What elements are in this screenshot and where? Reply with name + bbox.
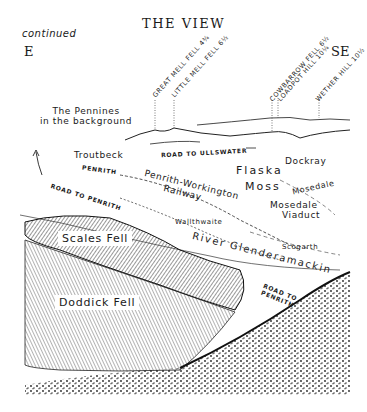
troutbeck-label: Troutbeck: [74, 150, 123, 160]
moss-label: Moss: [245, 180, 281, 193]
doddick-fell-label: Doddick Fell: [55, 295, 139, 310]
pennines-label: The Pennines in the background: [40, 106, 132, 126]
peak-leader-lines: [155, 100, 319, 132]
scales-fell-label: Scales Fell: [58, 231, 132, 246]
wallthwaite-label: Wallthwaite: [175, 218, 222, 226]
flaska-label: Flaska: [236, 164, 283, 177]
scogarth-label: Scogarth: [282, 243, 318, 251]
mosedale-viaduct-label: Mosedale Viaduct: [270, 200, 320, 220]
dockray-label: Dockray: [285, 156, 326, 166]
